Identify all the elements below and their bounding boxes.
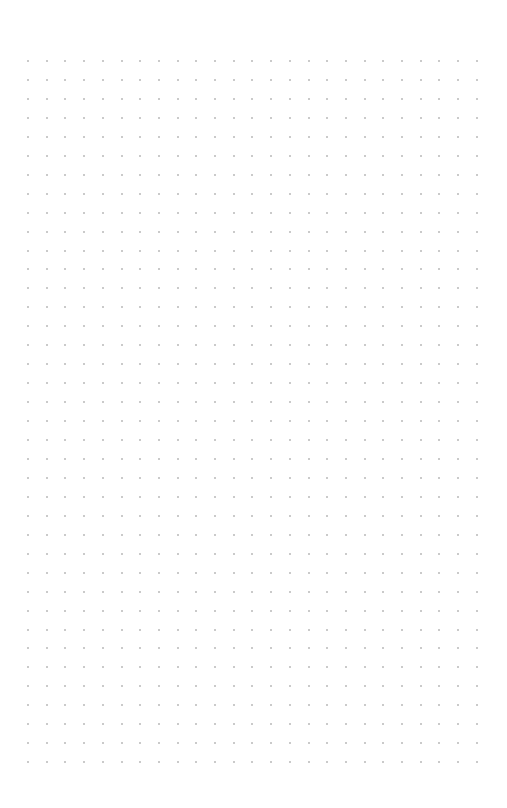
grid-dot	[438, 647, 440, 649]
grid-dot	[64, 79, 66, 81]
grid-dot	[214, 742, 216, 744]
grid-dot	[46, 79, 48, 81]
grid-dot	[308, 496, 310, 498]
grid-dot	[438, 666, 440, 668]
grid-dot	[158, 647, 160, 649]
grid-dot	[27, 666, 29, 668]
grid-dot	[158, 591, 160, 593]
grid-dot	[158, 382, 160, 384]
grid-dot	[457, 439, 459, 441]
grid-dot	[289, 212, 291, 214]
grid-dot	[420, 591, 422, 593]
grid-dot	[214, 553, 216, 555]
grid-dot	[289, 420, 291, 422]
grid-dot	[270, 306, 272, 308]
grid-dot	[27, 363, 29, 365]
grid-dot	[27, 117, 29, 119]
grid-dot	[382, 572, 384, 574]
grid-dot	[83, 477, 85, 479]
grid-dot	[457, 193, 459, 195]
grid-dot	[289, 306, 291, 308]
grid-dot	[121, 439, 123, 441]
grid-dot	[64, 174, 66, 176]
grid-dot	[214, 363, 216, 365]
grid-dot	[476, 306, 478, 308]
grid-dot	[345, 610, 347, 612]
grid-dot	[158, 572, 160, 574]
grid-dot	[438, 629, 440, 631]
grid-dot	[177, 306, 179, 308]
grid-dot	[102, 268, 104, 270]
grid-dot	[139, 629, 141, 631]
grid-dot	[27, 98, 29, 100]
grid-dot	[457, 268, 459, 270]
grid-dot	[270, 363, 272, 365]
grid-dot	[401, 610, 403, 612]
grid-dot	[158, 231, 160, 233]
grid-dot	[102, 363, 104, 365]
grid-dot	[121, 458, 123, 460]
grid-dot	[195, 306, 197, 308]
grid-dot	[289, 136, 291, 138]
grid-dot	[139, 212, 141, 214]
grid-dot	[438, 60, 440, 62]
grid-dot	[139, 704, 141, 706]
grid-dot	[270, 325, 272, 327]
grid-dot	[364, 79, 366, 81]
grid-dot	[476, 382, 478, 384]
grid-dot	[308, 515, 310, 517]
grid-dot	[83, 420, 85, 422]
grid-dot	[139, 325, 141, 327]
grid-dot	[420, 685, 422, 687]
grid-dot	[270, 666, 272, 668]
grid-dot	[289, 723, 291, 725]
grid-dot	[457, 685, 459, 687]
grid-dot	[83, 572, 85, 574]
grid-dot	[46, 193, 48, 195]
grid-dot	[326, 553, 328, 555]
grid-dot	[345, 534, 347, 536]
grid-dot	[438, 268, 440, 270]
grid-dot	[102, 647, 104, 649]
grid-dot	[27, 515, 29, 517]
grid-dot	[420, 401, 422, 403]
grid-dot	[46, 704, 48, 706]
grid-dot	[102, 117, 104, 119]
grid-dot	[139, 685, 141, 687]
grid-dot	[251, 685, 253, 687]
grid-dot	[364, 231, 366, 233]
grid-dot	[270, 610, 272, 612]
grid-dot	[83, 439, 85, 441]
grid-dot	[270, 439, 272, 441]
grid-dot	[270, 344, 272, 346]
grid-dot	[270, 704, 272, 706]
grid-dot	[64, 723, 66, 725]
grid-dot	[27, 268, 29, 270]
grid-dot	[233, 458, 235, 460]
grid-dot	[158, 629, 160, 631]
grid-dot	[364, 382, 366, 384]
grid-dot	[214, 344, 216, 346]
grid-dot	[345, 98, 347, 100]
grid-dot	[308, 666, 310, 668]
grid-dot	[121, 496, 123, 498]
grid-dot	[364, 420, 366, 422]
grid-dot	[233, 344, 235, 346]
grid-dot	[158, 439, 160, 441]
grid-dot	[251, 231, 253, 233]
grid-dot	[345, 212, 347, 214]
grid-dot	[46, 268, 48, 270]
grid-dot	[457, 420, 459, 422]
grid-dot	[401, 287, 403, 289]
grid-dot	[64, 742, 66, 744]
grid-dot	[83, 344, 85, 346]
grid-dot	[233, 420, 235, 422]
grid-dot	[195, 268, 197, 270]
grid-dot	[364, 155, 366, 157]
grid-dot	[308, 420, 310, 422]
grid-dot	[364, 212, 366, 214]
grid-dot	[139, 420, 141, 422]
grid-dot	[46, 60, 48, 62]
grid-dot	[438, 553, 440, 555]
grid-dot	[64, 287, 66, 289]
